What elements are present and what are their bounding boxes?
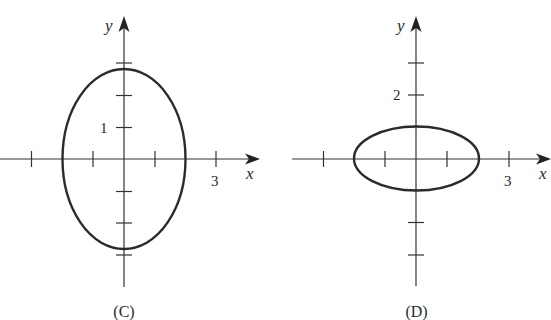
panel-caption: (C) (113, 303, 134, 320)
panel-d: y x 3 2 (D) (292, 16, 551, 320)
panel-c: y x 3 1 (C) (0, 16, 260, 320)
x-axis-label: x (538, 164, 547, 183)
panel-caption: (D) (405, 303, 427, 320)
y-tick-label: 1 (100, 120, 108, 136)
x-tick-label: 3 (504, 173, 512, 189)
x-axis-label: x (245, 164, 254, 183)
y-axis-label: y (103, 16, 113, 35)
y-tick-label: 2 (393, 87, 401, 103)
x-tick-label: 3 (211, 173, 219, 189)
y-axis-label: y (395, 16, 405, 35)
ellipse-figure: y x 3 1 (C) y x 3 2 (0, 0, 551, 320)
